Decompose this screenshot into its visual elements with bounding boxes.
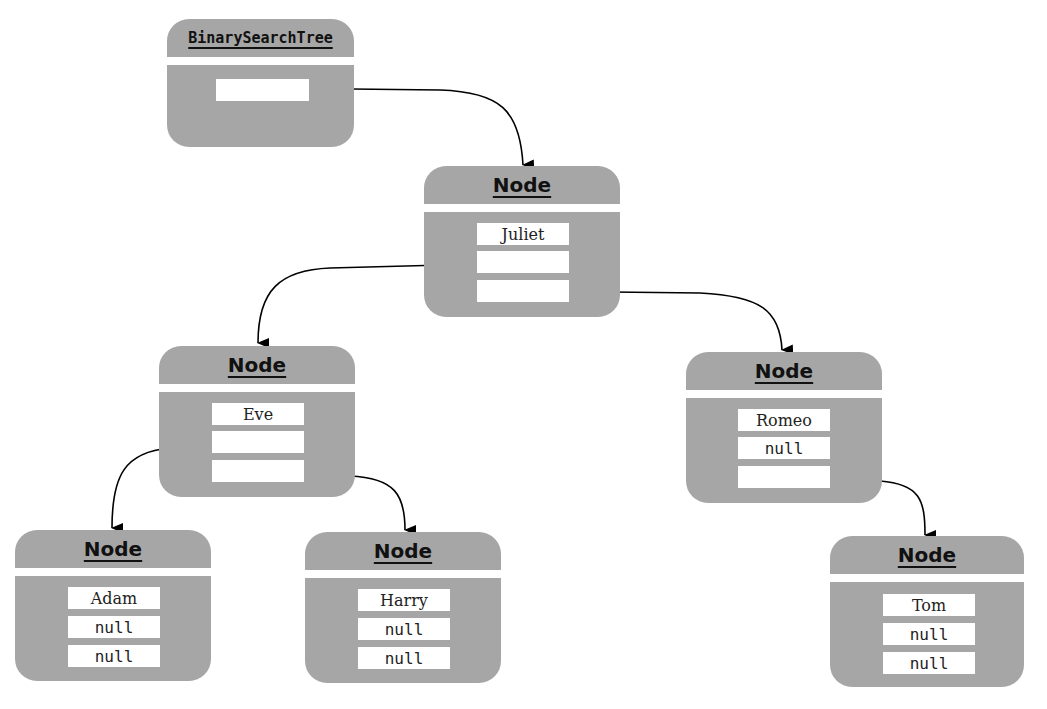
node-header: Node: [686, 352, 882, 390]
right-field: null: [68, 645, 160, 667]
node-header: Node: [830, 536, 1024, 574]
node-adam: Node Adam null null: [15, 530, 211, 681]
data-field: Tom: [883, 594, 975, 616]
node-title: Node: [84, 537, 142, 561]
node-body: Juliet: [424, 212, 620, 317]
node-title: Node: [228, 353, 286, 377]
binary-search-tree-box: BinarySearchTree: [167, 19, 354, 147]
right-field: [738, 466, 830, 488]
node-title: Node: [755, 359, 813, 383]
node-body: Harry null null: [305, 578, 501, 683]
left-field: null: [883, 623, 975, 645]
right-field: null: [883, 652, 975, 674]
bst-diagram: BinarySearchTree Node Juliet Node Eve No…: [0, 0, 1047, 709]
node-body: Eve: [159, 392, 355, 497]
node-body: Adam null null: [15, 576, 211, 681]
left-field: null: [358, 618, 450, 640]
box-title: BinarySearchTree: [188, 29, 333, 47]
right-field: [477, 280, 569, 302]
node-body: Tom null null: [830, 582, 1024, 687]
node-eve: Node Eve: [159, 346, 355, 497]
right-field: [212, 460, 304, 482]
node-header: Node: [159, 346, 355, 384]
node-body: Romeo null: [686, 398, 882, 503]
left-field: null: [738, 437, 830, 459]
data-field: Romeo: [738, 409, 830, 431]
node-romeo: Node Romeo null: [686, 352, 882, 503]
data-field: Eve: [212, 403, 304, 425]
right-field: null: [358, 647, 450, 669]
node-header: Node: [15, 530, 211, 568]
left-field: [477, 251, 569, 273]
node-header: Node: [305, 532, 501, 570]
node-title: Node: [374, 539, 432, 563]
left-field: [212, 431, 304, 453]
box-header: BinarySearchTree: [167, 19, 354, 57]
data-field: Harry: [358, 589, 450, 611]
node-tom: Node Tom null null: [830, 536, 1024, 687]
box-body: [167, 65, 354, 147]
root-field: [216, 79, 309, 101]
node-harry: Node Harry null null: [305, 532, 501, 683]
data-field: Juliet: [477, 223, 569, 245]
node-title: Node: [898, 543, 956, 567]
left-field: null: [68, 616, 160, 638]
node-juliet: Node Juliet: [424, 166, 620, 317]
node-title: Node: [493, 173, 551, 197]
data-field: Adam: [68, 587, 160, 609]
node-header: Node: [424, 166, 620, 204]
